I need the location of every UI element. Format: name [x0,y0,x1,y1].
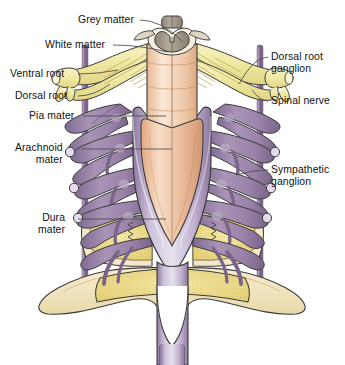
label-white-matter: White matter [45,39,105,51]
label-pia-mater: Pia mater [29,110,74,122]
label-sympathetic-ganglion: Sympathetic ganglion [271,164,329,189]
label-grey-matter: Grey matter [78,14,134,26]
label-spinal-nerve: Spinal nerve [271,95,330,107]
label-ventral-root: Ventral root [10,68,64,80]
label-arachnoid-mater: Arachnoid mater [15,142,63,167]
label-dorsal-root-ganglion: Dorsal root ganglion [271,51,323,76]
anatomical-diagram: Grey matterWhite matterVentral rootDorsa… [0,0,345,365]
label-dorsal-root: Dorsal root [15,90,67,102]
label-dura-mater: Dura mater [38,212,65,237]
